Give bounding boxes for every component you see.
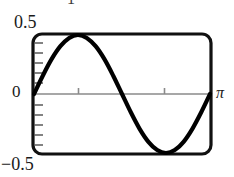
figure-screenshot: −1 0.5 0 −0.5 π <box>0 0 234 177</box>
y-axis-max-label: 0.5 <box>14 13 37 31</box>
clipped-label-above-figure: −1 <box>58 0 75 7</box>
plot-area <box>31 32 213 156</box>
x-axis-max-label-pi: π <box>216 85 224 101</box>
y-axis-zero-label: 0 <box>12 83 21 100</box>
plot-svg <box>31 32 213 156</box>
y-axis-min-label: −0.5 <box>1 155 34 173</box>
